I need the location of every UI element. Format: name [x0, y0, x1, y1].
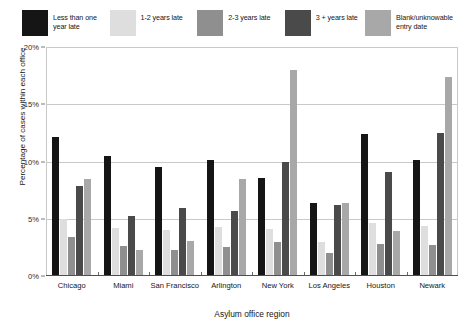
y-axis-tick-label: 10%	[24, 157, 39, 166]
bar-group-newark	[407, 47, 459, 276]
bar[interactable]	[429, 245, 436, 276]
y-axis-tick-mark	[41, 218, 45, 219]
bar-group-chicago	[46, 47, 98, 276]
bar-group-san-francisco	[149, 47, 201, 276]
y-axis-tick-label: 20%	[24, 43, 39, 52]
y-axis-tick-label: 15%	[24, 100, 39, 109]
x-axis-label-new-york: New York	[252, 281, 304, 290]
bar[interactable]	[290, 70, 297, 276]
y-axis-tick-label: 5%	[28, 214, 39, 223]
bar[interactable]	[377, 244, 384, 276]
legend-item-label: Less than one year late	[53, 10, 97, 31]
bar[interactable]	[369, 223, 376, 276]
bar[interactable]	[231, 211, 238, 276]
x-axis-label-miami: Miami	[98, 281, 150, 290]
bar[interactable]	[413, 160, 420, 276]
x-axis-label-chicago: Chicago	[46, 281, 98, 290]
bar[interactable]	[310, 203, 317, 276]
x-axis-label-los-angeles: Los Angeles	[304, 281, 356, 290]
bar[interactable]	[52, 137, 59, 276]
y-axis-tick-mark	[41, 104, 45, 105]
bar[interactable]	[239, 179, 246, 276]
bar[interactable]	[171, 250, 178, 276]
bar-group-houston	[355, 47, 407, 276]
bar[interactable]	[179, 208, 186, 276]
bar-group-arlington	[201, 47, 253, 276]
bar-groups	[46, 47, 458, 276]
x-axis-label-newark: Newark	[407, 281, 459, 290]
bar[interactable]	[223, 247, 230, 276]
x-axis-labels: ChicagoMiamiSan FranciscoArlingtonNew Yo…	[46, 281, 458, 290]
bar[interactable]	[104, 156, 111, 276]
bar[interactable]	[136, 250, 143, 276]
y-axis-tick-mark	[41, 161, 45, 162]
bar-chart: Less than one year late1-2 years late2-3…	[0, 0, 466, 333]
bar-group-los-angeles	[304, 47, 356, 276]
legend-item-4[interactable]: Blank/unknowable entry date	[365, 10, 460, 36]
legend-item-1[interactable]: 1-2 years late	[110, 10, 198, 36]
bar-group-new-york	[252, 47, 304, 276]
x-axis-label-arlington: Arlington	[201, 281, 253, 290]
bar[interactable]	[274, 242, 281, 276]
bar[interactable]	[437, 133, 444, 276]
legend-item-2[interactable]: 2-3 years late	[197, 10, 285, 36]
bar[interactable]	[282, 162, 289, 277]
legend-item-label: 2-3 years late	[228, 10, 270, 22]
bar[interactable]	[68, 237, 75, 276]
legend-swatch-icon	[110, 10, 136, 36]
legend-swatch-icon	[285, 10, 311, 36]
bar[interactable]	[155, 167, 162, 276]
x-axis-title: Asylum office region	[46, 309, 458, 319]
y-axis: 0%5%10%15%20%	[0, 47, 44, 276]
bar[interactable]	[266, 229, 273, 276]
legend-item-label: 3 + years late	[316, 10, 358, 22]
bar[interactable]	[187, 241, 194, 276]
bar-group-miami	[98, 47, 150, 276]
bar[interactable]	[215, 227, 222, 276]
bar[interactable]	[326, 253, 333, 276]
legend-swatch-icon	[365, 10, 391, 36]
y-axis-tick-mark	[41, 276, 45, 277]
bar[interactable]	[445, 77, 452, 276]
y-axis-tick-label: 0%	[28, 272, 39, 281]
bar[interactable]	[385, 172, 392, 276]
x-axis-label-san-francisco: San Francisco	[149, 281, 201, 290]
plot-area	[46, 47, 458, 276]
bar[interactable]	[207, 160, 214, 276]
bar[interactable]	[342, 203, 349, 276]
bar[interactable]	[120, 246, 127, 276]
bar[interactable]	[163, 230, 170, 276]
y-axis-tick-mark	[41, 47, 45, 48]
bar[interactable]	[60, 219, 67, 276]
bar[interactable]	[112, 228, 119, 276]
legend-item-0[interactable]: Less than one year late	[22, 10, 110, 36]
bar[interactable]	[361, 134, 368, 276]
bar[interactable]	[334, 205, 341, 276]
chart-legend: Less than one year late1-2 years late2-3…	[22, 10, 460, 40]
x-axis-label-houston: Houston	[355, 281, 407, 290]
bar[interactable]	[76, 186, 83, 276]
bar[interactable]	[318, 242, 325, 276]
bar[interactable]	[128, 216, 135, 276]
legend-item-label: Blank/unknowable entry date	[396, 10, 453, 31]
legend-swatch-icon	[197, 10, 223, 36]
bar[interactable]	[84, 179, 91, 276]
x-axis-baseline	[46, 275, 458, 276]
legend-item-label: 1-2 years late	[141, 10, 183, 22]
legend-item-3[interactable]: 3 + years late	[285, 10, 365, 36]
bar[interactable]	[258, 178, 265, 276]
bar[interactable]	[421, 226, 428, 276]
bar[interactable]	[393, 231, 400, 276]
